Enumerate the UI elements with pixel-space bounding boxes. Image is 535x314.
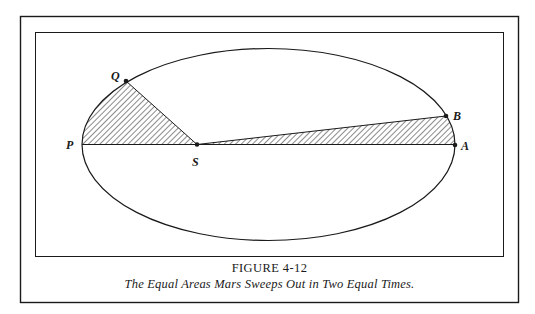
point-q-dot: [124, 79, 129, 84]
label-s: S: [192, 155, 199, 169]
label-a: A: [460, 139, 469, 153]
figure-caption: The Equal Areas Mars Sweeps Out in Two E…: [20, 277, 519, 292]
sector-qsp: [60, 60, 197, 145]
label-p: P: [66, 138, 74, 152]
label-b: B: [452, 109, 461, 123]
figure-number: FIGURE 4-12: [20, 261, 519, 276]
point-s-dot: [195, 142, 200, 147]
point-a-dot: [453, 143, 458, 148]
outer-frame: [21, 17, 519, 303]
point-b-dot: [444, 114, 449, 119]
label-q: Q: [111, 69, 120, 83]
